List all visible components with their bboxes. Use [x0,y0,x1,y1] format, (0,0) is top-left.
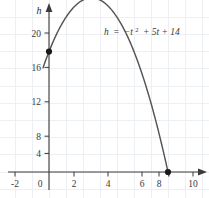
x-tick-label-6: 6 [140,179,145,189]
x-tick-label-4: 4 [106,179,111,189]
y-tick-label-4: 4 [36,149,41,159]
x-tick-label-10: 10 [188,179,198,189]
y-tick-label-8: 8 [36,132,41,142]
equation-exponent: 2 [135,26,138,33]
y-tick-label-20: 20 [32,29,42,39]
x-tick-label-2: 2 [72,179,77,189]
graph-figure: h -2 0 2 4 6 8 10 20 16 12 8 4 h = −t 2 … [0,0,209,198]
y-tick-label-12: 12 [32,97,42,107]
equation-lhs: h [104,27,109,37]
equation-annotation: h = −t 2 + 5t + 14 [104,24,180,37]
x-tick-label-0: 0 [38,179,43,189]
equation-rest: + 5t + 14 [143,27,180,37]
y-tick-label-16: 16 [32,63,42,73]
equation-term1: −t [124,27,133,37]
point-y-intercept [46,49,52,55]
y-axis-label: h [37,5,42,16]
point-x-intercept [165,169,171,175]
x-tick-label-minus2: -2 [11,179,19,189]
parabola-plot: h -2 0 2 4 6 8 10 20 16 12 8 4 h = −t 2 … [0,0,209,198]
x-tick-label-8: 8 [157,179,162,189]
equation-equals: = [114,27,119,37]
y-axis-arrowhead [46,3,53,12]
